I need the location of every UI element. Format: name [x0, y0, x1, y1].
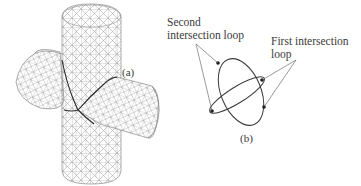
panel-b-label: (b) [240, 132, 253, 144]
second-loop-annotation: Second intersection loop [167, 16, 244, 42]
mesh-cylinders [16, 4, 159, 184]
first-loop-annotation: First intersection loop [271, 35, 349, 61]
first-loop-line1: First intersection [271, 35, 349, 48]
horizontal-cylinder-left [16, 49, 64, 109]
leader-lines-first [262, 60, 296, 107]
leader-lines-second [196, 44, 218, 111]
second-loop-line1: Second [167, 16, 244, 29]
first-loop-line2: loop [271, 48, 349, 61]
second-loop-line2: intersection loop [167, 29, 244, 42]
first-intersection-loop [206, 71, 269, 118]
panel-a-label: (a) [122, 66, 134, 78]
